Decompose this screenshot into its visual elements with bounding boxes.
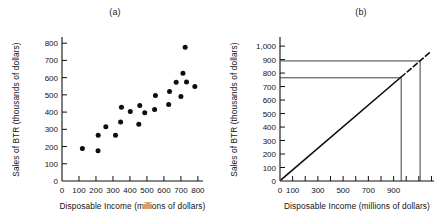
y-tick-label-b: 300 (263, 137, 277, 146)
y-tick-label-b: 400 (263, 123, 277, 132)
scatter-plot-a: 0100200300400500600700800010020030040050… (0, 0, 222, 224)
scatter-point (167, 89, 172, 94)
x-tick-label-b: 500 (336, 186, 350, 195)
scatter-point (192, 84, 197, 89)
x-tick-label-a: 200 (89, 186, 103, 195)
scatter-point (174, 80, 179, 85)
x-tick-label-a: 0 (60, 186, 65, 195)
scatter-point (80, 146, 85, 151)
y-tick-label-a: 0 (54, 177, 59, 186)
scatter-point (136, 122, 141, 127)
y-tick-label-a: 300 (45, 125, 59, 134)
y-tick-label-a: 100 (45, 160, 59, 169)
scatter-point (180, 71, 185, 76)
x-tick-label-b: 700 (362, 186, 376, 195)
scatter-point (183, 45, 188, 50)
y-tick-label-b: 500 (263, 110, 277, 119)
line-plot-b: 01002003004005006007008009001,0000100300… (222, 0, 444, 224)
x-axis-title-b: Disposable Income (millions of dollars) (284, 201, 430, 211)
x-axis-title-a: Disposable Income (millions of dollars) (60, 201, 206, 211)
x-tick-label-a: 700 (174, 186, 188, 195)
y-tick-label-a: 200 (45, 143, 59, 152)
y-tick-label-a: 600 (45, 74, 59, 83)
y-tick-label-a: 700 (45, 56, 59, 65)
y-tick-label-b: 200 (263, 150, 277, 159)
x-tick-label-b: 900 (387, 186, 401, 195)
y-tick-label-b: 100 (263, 164, 277, 173)
y-axis-title-a: Sales of BTR (thousands of dollars) (11, 42, 21, 177)
figure-container: (a) 010020030040050060070080001002003004… (0, 0, 444, 224)
scatter-point (142, 110, 147, 115)
x-tick-label-a: 600 (157, 186, 171, 195)
y-tick-label-b: 0 (272, 177, 277, 186)
x-tick-label-a: 100 (72, 186, 86, 195)
scatter-point (128, 109, 133, 114)
y-axis-title-b: Sales of BTR (thousands of dollars) (229, 42, 239, 177)
regression-line-dashed (401, 52, 430, 77)
scatter-point (137, 103, 142, 108)
scatter-point (178, 94, 183, 99)
panel-a: (a) 010020030040050060070080001002003004… (0, 0, 222, 224)
scatter-point (184, 79, 189, 84)
scatter-point (152, 107, 157, 112)
scatter-point (118, 119, 123, 124)
scatter-point (96, 133, 101, 138)
y-tick-label-a: 400 (45, 108, 59, 117)
x-tick-label-a: 800 (191, 186, 205, 195)
scatter-point (103, 124, 108, 129)
y-tick-label-b: 600 (263, 96, 277, 105)
x-tick-label-a: 500 (140, 186, 154, 195)
y-tick-label-b: 700 (263, 83, 277, 92)
scatter-point (119, 105, 124, 110)
y-tick-label-b: 900 (263, 56, 277, 65)
x-tick-label-b: 100 (286, 186, 300, 195)
y-tick-label-b: 1,000 (256, 42, 277, 51)
y-tick-label-a: 500 (45, 91, 59, 100)
y-tick-label-b: 800 (263, 69, 277, 78)
y-tick-label-a: 800 (45, 39, 59, 48)
x-tick-label-b: 0 (278, 186, 283, 195)
scatter-point (153, 93, 158, 98)
scatter-point (166, 102, 171, 107)
x-tick-label-a: 400 (123, 186, 137, 195)
scatter-point (113, 133, 118, 138)
x-tick-label-b: 300 (311, 186, 325, 195)
regression-line-solid (281, 77, 401, 180)
scatter-point (96, 148, 101, 153)
x-tick-label-a: 300 (106, 186, 120, 195)
panel-b: (b) 01002003004005006007008009001,000010… (222, 0, 444, 224)
